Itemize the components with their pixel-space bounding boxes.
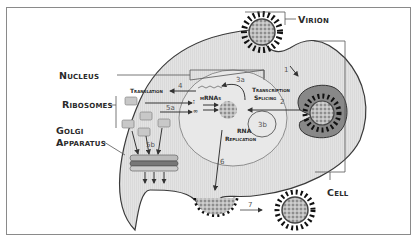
label-mrnas: mRNAs <box>200 94 221 101</box>
virus-lifecycle-diagram: Virion Cell Nucleus Ribosomes Golgi Appa… <box>0 0 418 243</box>
label-golgi-line1: Golgi <box>56 125 84 136</box>
label-nucleus: Nucleus <box>59 70 99 81</box>
golgi-pointer <box>104 142 125 155</box>
released-virion-icon <box>277 192 313 228</box>
mrna-glyph-1: ∶ <box>193 98 195 105</box>
label-splicing: Splicing <box>254 94 276 101</box>
label-rna: RNA <box>237 127 252 134</box>
step-5a: 5a <box>166 104 175 112</box>
label-translation: Translation <box>130 87 163 94</box>
label-cell: Cell <box>327 187 349 198</box>
budding-virion-icon <box>196 198 236 215</box>
step-3b: 3b <box>258 121 267 129</box>
endosome-virion-icon <box>298 85 347 138</box>
step-3a: 3a <box>236 76 245 84</box>
step-2: 2 <box>280 98 284 106</box>
step-4: 4 <box>178 82 183 90</box>
label-transcription: Transcription <box>252 86 290 93</box>
step-5b: 5b <box>146 141 155 149</box>
label-replication: Replication <box>225 135 256 142</box>
step-1: 1 <box>284 66 288 74</box>
rna-replication-blob <box>219 101 237 119</box>
label-ribosomes: Ribosomes <box>62 99 113 110</box>
golgi-apparatus <box>130 155 178 171</box>
step-7: 7 <box>248 201 252 209</box>
label-virion: Virion <box>298 14 329 25</box>
step-6: 6 <box>220 158 225 166</box>
label-golgi-line2: Apparatus <box>56 137 106 148</box>
mrna-glyph-2: ∞ <box>193 107 198 114</box>
